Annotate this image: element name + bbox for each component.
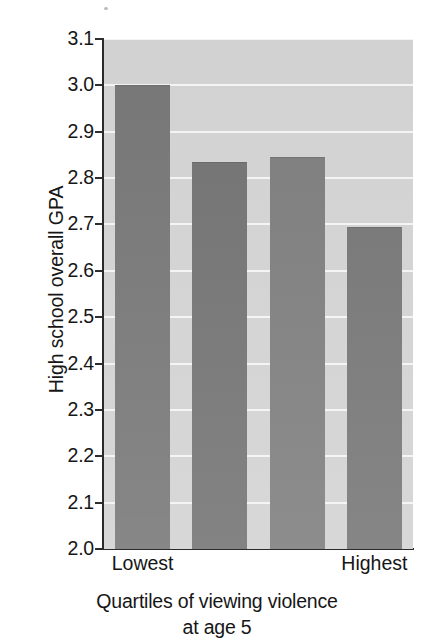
- bar: [347, 227, 402, 549]
- bar: [270, 157, 325, 549]
- x-axis-title-line-1: Quartiles of viewing violence: [96, 590, 337, 612]
- scan-artifact-speck: [104, 7, 108, 10]
- x-axis-title-line-2: at age 5: [0, 614, 434, 640]
- y-axis-tick-labels: 2.02.12.22.32.42.52.62.72.82.93.03.1: [48, 0, 94, 644]
- bar: [192, 162, 247, 549]
- y-tick-label: 2.2: [48, 447, 94, 467]
- y-tick-label: 2.5: [48, 307, 94, 327]
- x-axis-title: Quartiles of viewing violence at age 5: [0, 588, 434, 640]
- y-tick-label: 3.0: [48, 76, 94, 96]
- y-tick-label: 2.3: [48, 400, 94, 420]
- y-tick-label: 2.1: [48, 493, 94, 513]
- x-axis-tick-labels: LowestHighest: [104, 554, 413, 584]
- y-tick-label: 2.6: [48, 261, 94, 281]
- x-tick-label: Highest: [341, 554, 407, 574]
- y-tick-label: 2.0: [48, 539, 94, 559]
- y-tick-label: 2.4: [48, 354, 94, 374]
- gridline: [104, 39, 413, 40]
- y-tick-label: 2.7: [48, 215, 94, 235]
- y-tick-label: 2.9: [48, 122, 94, 142]
- bar-chart-figure: High school overall GPA 2.02.12.22.32.42…: [0, 0, 434, 644]
- y-tick-label: 2.8: [48, 168, 94, 188]
- plot-area: [104, 39, 413, 549]
- x-tick-label: Lowest: [112, 554, 174, 574]
- y-tick-label: 3.1: [48, 29, 94, 49]
- bar: [115, 85, 170, 549]
